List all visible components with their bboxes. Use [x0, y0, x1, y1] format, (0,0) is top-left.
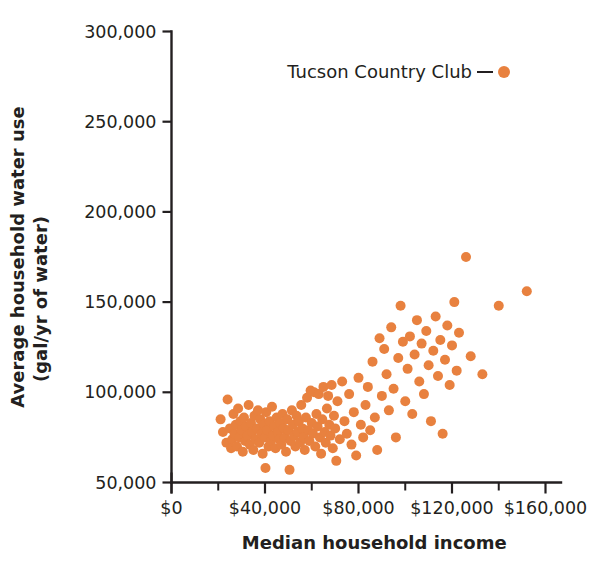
- data-point: [342, 429, 352, 439]
- data-point: [433, 371, 443, 381]
- data-point: [260, 463, 270, 473]
- data-point: [316, 449, 326, 459]
- data-point: [400, 396, 410, 406]
- data-point: [466, 351, 476, 361]
- data-point: [379, 344, 389, 354]
- x-tick-label-40000: $40,000: [229, 498, 301, 518]
- data-point: [386, 322, 396, 332]
- y-axis-title-line2: (gal/yr of water): [30, 216, 51, 382]
- data-point: [410, 349, 420, 359]
- data-point: [449, 297, 459, 307]
- x-axis-title: Median household income: [242, 532, 507, 553]
- data-point: [361, 400, 371, 410]
- x-tick-label-160000: $160,000: [504, 498, 588, 518]
- data-point: [322, 404, 332, 414]
- data-point: [365, 425, 375, 435]
- data-points-layer: [216, 252, 532, 475]
- data-point: [396, 301, 406, 311]
- data-point: [216, 414, 226, 424]
- x-tick-label-120000: $120,000: [410, 498, 494, 518]
- x-tick-label-0: $0: [160, 498, 182, 518]
- data-point: [358, 432, 368, 442]
- data-point: [346, 440, 356, 450]
- data-point: [339, 416, 349, 426]
- legend-marker-icon: [498, 66, 510, 78]
- data-point: [332, 396, 342, 406]
- data-point: [494, 301, 504, 311]
- chart-canvas: 50,000100,000150,000200,000250,000300,00…: [0, 0, 611, 574]
- data-point: [419, 389, 429, 399]
- data-point: [389, 384, 399, 394]
- data-point: [267, 402, 277, 412]
- data-point: [452, 366, 462, 376]
- data-point: [377, 391, 387, 401]
- data-point: [477, 369, 487, 379]
- data-point: [327, 380, 337, 390]
- data-point: [447, 340, 457, 350]
- y-axis-title-line1: Average household water use: [7, 106, 28, 408]
- data-point: [323, 391, 333, 401]
- data-point: [354, 373, 364, 383]
- data-point: [363, 382, 373, 392]
- data-point: [426, 416, 436, 426]
- data-point: [344, 389, 354, 399]
- data-point: [403, 364, 413, 374]
- y-tick-label-250000: 250,000: [84, 112, 156, 132]
- data-point: [329, 411, 339, 421]
- scatter-chart: 50,000100,000150,000200,000250,000300,00…: [0, 0, 611, 574]
- data-point: [391, 432, 401, 442]
- data-point: [405, 331, 415, 341]
- data-point: [428, 346, 438, 356]
- data-point: [417, 339, 427, 349]
- data-point: [431, 312, 441, 322]
- data-point: [412, 315, 422, 325]
- y-tick-label-150000: 150,000: [84, 292, 156, 312]
- data-point: [351, 450, 361, 460]
- legend-label: Tucson Country Club: [286, 61, 472, 82]
- data-point: [223, 395, 233, 405]
- data-point: [375, 333, 385, 343]
- data-point: [414, 376, 424, 386]
- y-tick-label-100000: 100,000: [84, 382, 156, 402]
- data-point: [382, 369, 392, 379]
- data-point: [384, 405, 394, 415]
- data-point: [407, 409, 417, 419]
- chart-legend: Tucson Country Club: [286, 61, 510, 82]
- data-point: [328, 443, 338, 453]
- data-point: [421, 326, 431, 336]
- data-point: [440, 355, 450, 365]
- data-point: [337, 376, 347, 386]
- data-point: [330, 423, 340, 433]
- data-point: [442, 321, 452, 331]
- y-tick-label-200000: 200,000: [84, 202, 156, 222]
- data-point: [233, 404, 243, 414]
- data-point: [372, 445, 382, 455]
- data-point: [356, 420, 366, 430]
- data-point: [349, 407, 359, 417]
- data-point: [438, 429, 448, 439]
- data-point: [424, 360, 434, 370]
- axis-labels-layer: 50,000100,000150,000200,000250,000300,00…: [7, 22, 587, 554]
- y-tick-label-50000: 50,000: [95, 473, 156, 493]
- data-point: [370, 413, 380, 423]
- data-point: [285, 465, 295, 475]
- data-point: [368, 357, 378, 367]
- data-point: [238, 447, 248, 457]
- data-point: [393, 353, 403, 363]
- data-point: [461, 252, 471, 262]
- data-point: [522, 286, 532, 296]
- data-point: [435, 335, 445, 345]
- data-point: [244, 400, 254, 410]
- data-point: [331, 456, 341, 466]
- data-point: [445, 380, 455, 390]
- y-tick-label-300000: 300,000: [84, 22, 156, 42]
- x-tick-label-80000: $80,000: [322, 498, 394, 518]
- data-point: [300, 445, 310, 455]
- data-point: [454, 328, 464, 338]
- data-point: [281, 447, 291, 457]
